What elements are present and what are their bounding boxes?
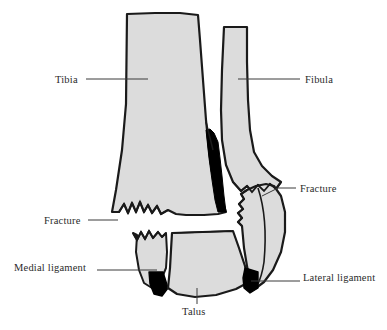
label-medial-ligament: Medial ligament [14, 262, 86, 273]
label-lateral-ligament: Lateral ligament [303, 272, 375, 283]
label-fibula: Fibula [305, 74, 333, 85]
label-fracture-medial: Fracture [44, 215, 81, 226]
label-fracture-lateral: Fracture [300, 183, 337, 194]
anatomical-figure: Tibia Fibula Fracture Fracture Medial li… [0, 0, 387, 330]
tibia-bone [112, 13, 226, 215]
talus-bone [168, 231, 249, 297]
fibula-bone [221, 27, 281, 192]
label-talus: Talus [182, 306, 206, 317]
label-tibia: Tibia [55, 74, 78, 85]
medial-ligament [149, 272, 168, 296]
